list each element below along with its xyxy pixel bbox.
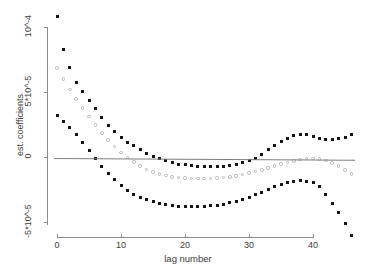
data-point-estimate (260, 168, 264, 172)
data-point-estimate (337, 164, 341, 168)
data-point-estimate (100, 131, 104, 135)
data-point-lower-band (273, 185, 276, 188)
x-axis-tick (313, 234, 314, 238)
data-point-lower-band (337, 211, 340, 214)
data-point-lower-band (312, 181, 315, 184)
data-point-estimate (87, 115, 91, 119)
x-axis-tick-label: 20 (170, 240, 200, 250)
data-point-estimate (183, 176, 187, 180)
data-point-lower-band (107, 172, 110, 175)
y-axis-tick-label: -5*10^-5 (23, 195, 33, 247)
data-point-upper-band (299, 133, 302, 136)
data-point-lower-band (305, 180, 308, 183)
data-point-estimate (234, 174, 238, 178)
chart-figure: est. coefficients lag number 10^-45*10^-… (0, 0, 371, 275)
data-point-lower-band (299, 179, 302, 182)
data-point-upper-band (203, 165, 206, 168)
data-point-estimate (158, 172, 162, 176)
data-point-lower-band (260, 191, 263, 194)
data-point-lower-band (254, 193, 257, 196)
data-point-lower-band (62, 120, 65, 123)
data-point-lower-band (190, 205, 193, 208)
data-point-estimate (62, 77, 66, 81)
data-point-estimate (55, 66, 59, 70)
data-point-estimate (202, 177, 206, 181)
data-point-upper-band (56, 15, 59, 18)
data-point-lower-band (228, 201, 231, 204)
data-point-estimate (228, 175, 232, 179)
data-point-lower-band (56, 114, 59, 117)
x-axis-tick-label: 0 (42, 240, 72, 250)
data-point-lower-band (171, 204, 174, 207)
data-point-estimate (151, 170, 155, 174)
data-point-estimate (254, 170, 258, 174)
data-point-upper-band (107, 124, 110, 127)
data-point-lower-band (158, 202, 161, 205)
data-point-lower-band (324, 193, 327, 196)
data-point-upper-band (120, 136, 123, 139)
data-point-lower-band (344, 222, 347, 225)
data-point-estimate (106, 138, 110, 142)
data-point-estimate (215, 176, 219, 180)
data-point-lower-band (126, 189, 129, 192)
y-axis-tick (44, 27, 48, 28)
data-point-upper-band (132, 144, 135, 147)
data-point-upper-band (280, 140, 283, 143)
data-point-estimate (222, 176, 226, 180)
x-axis-tick (57, 234, 58, 238)
data-point-upper-band (177, 163, 180, 166)
data-point-upper-band (145, 152, 148, 155)
data-point-lower-band (350, 234, 353, 237)
y-axis-tick (44, 157, 48, 158)
data-point-estimate (138, 164, 142, 168)
data-point-upper-band (292, 134, 295, 137)
x-axis-tick (185, 234, 186, 238)
data-point-estimate (286, 161, 290, 165)
data-point-estimate (190, 177, 194, 181)
data-point-upper-band (260, 153, 263, 156)
data-point-upper-band (228, 164, 231, 167)
data-point-upper-band (267, 148, 270, 151)
data-point-upper-band (241, 161, 244, 164)
data-point-lower-band (81, 141, 84, 144)
x-axis-tick-label: 10 (106, 240, 136, 250)
data-point-upper-band (273, 144, 276, 147)
data-point-upper-band (216, 165, 219, 168)
data-point-lower-band (267, 188, 270, 191)
data-point-upper-band (171, 161, 174, 164)
data-point-estimate (74, 97, 78, 101)
data-point-estimate (350, 172, 354, 176)
data-point-upper-band (126, 141, 129, 144)
x-axis-tick-label: 30 (234, 240, 264, 250)
data-point-upper-band (75, 81, 78, 84)
data-point-estimate (177, 176, 181, 180)
data-point-estimate (170, 175, 174, 179)
data-point-upper-band (139, 148, 142, 151)
data-point-estimate (113, 145, 117, 149)
data-point-estimate (164, 174, 168, 178)
data-point-lower-band (177, 205, 180, 208)
data-point-upper-band (331, 138, 334, 141)
data-point-lower-band (113, 178, 116, 181)
y-axis-tick (44, 92, 48, 93)
data-point-lower-band (184, 205, 187, 208)
data-point-estimate (145, 168, 149, 172)
y-axis-tick (44, 222, 48, 223)
data-point-estimate (273, 164, 277, 168)
y-axis-tick-label: 10^-4 (23, 0, 33, 52)
data-point-lower-band (286, 181, 289, 184)
data-point-upper-band (222, 165, 225, 168)
data-point-upper-band (196, 165, 199, 168)
data-point-estimate (266, 166, 270, 170)
data-point-upper-band (235, 163, 238, 166)
y-axis-line (47, 27, 48, 225)
data-point-estimate (81, 106, 85, 110)
data-point-lower-band (145, 198, 148, 201)
data-point-lower-band (235, 200, 238, 203)
data-point-lower-band (280, 183, 283, 186)
data-point-upper-band (337, 137, 340, 140)
data-point-upper-band (164, 159, 167, 162)
data-point-lower-band (248, 196, 251, 199)
x-axis-title: lag number (118, 253, 258, 264)
data-point-lower-band (68, 126, 71, 129)
